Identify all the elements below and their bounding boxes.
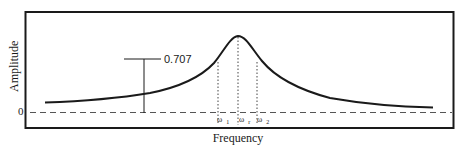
plot-frame bbox=[26, 12, 454, 128]
marker-w1-label: ω1 bbox=[217, 115, 229, 125]
y-zero-label: 0 bbox=[18, 105, 24, 117]
level-label: 0.707 bbox=[164, 53, 192, 65]
marker-w2-label: ω2 bbox=[257, 115, 269, 125]
marker-wr-label: ωr bbox=[239, 115, 250, 125]
resonance-curve bbox=[45, 36, 433, 108]
resonance-chart: 0.707 ω1 ωr ω2 0 Amplitude Frequency bbox=[0, 0, 462, 150]
y-axis-label: Amplitude bbox=[7, 41, 21, 92]
x-axis-label: Frequency bbox=[213, 131, 264, 145]
